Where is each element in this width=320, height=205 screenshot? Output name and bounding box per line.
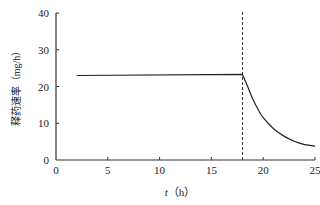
svg-text:释药速率（mg/h）: 释药速率（mg/h） <box>10 46 22 127</box>
y-tick-label: 40 <box>38 7 50 19</box>
axes <box>56 13 315 160</box>
release-rate-chart: 0510152025010203040 t（h） 释药速率（mg/h） <box>0 0 320 205</box>
x-axis-label: t（h） <box>165 186 196 198</box>
svg-text:t（h）: t（h） <box>165 186 196 198</box>
x-tick-label: 15 <box>206 164 218 176</box>
x-tick-label: 5 <box>105 164 111 176</box>
chart-canvas: 0510152025010203040 t（h） 释药速率（mg/h） <box>0 0 320 205</box>
x-tick-label: 10 <box>154 164 166 176</box>
y-tick-label: 0 <box>44 154 50 166</box>
release-rate-line <box>77 74 315 146</box>
x-tick-label: 20 <box>258 164 270 176</box>
x-tick-label: 0 <box>53 164 59 176</box>
plot-area <box>77 11 315 160</box>
x-tick-label: 25 <box>310 164 320 176</box>
tick-labels: 0510152025010203040 <box>38 7 320 176</box>
y-tick-label: 20 <box>38 81 50 93</box>
y-tick-label: 10 <box>38 117 50 129</box>
y-tick-label: 30 <box>38 44 50 56</box>
y-axis-label: 释药速率（mg/h） <box>10 46 22 127</box>
